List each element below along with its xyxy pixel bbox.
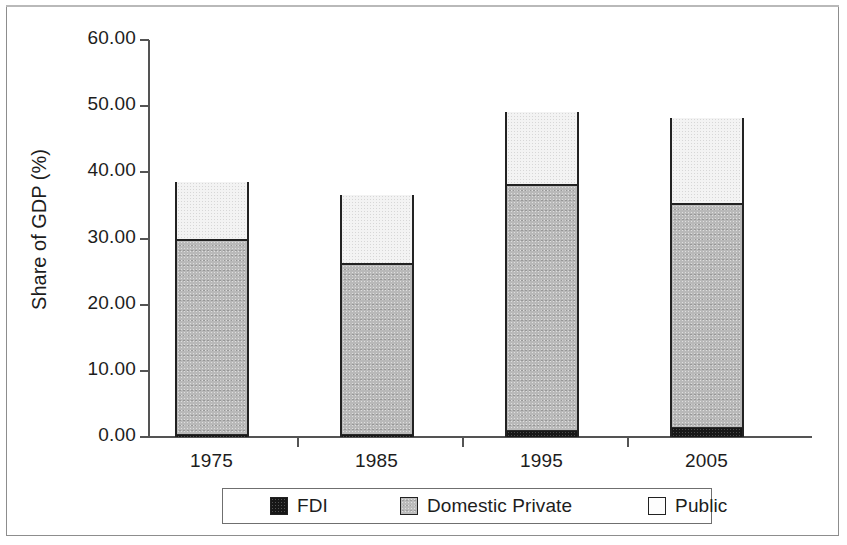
bar-segment-public	[342, 195, 412, 263]
x-axis-tick-label: 2005	[627, 450, 787, 472]
chart-legend: FDI Domestic Private Public	[222, 488, 712, 524]
x-axis-tick	[627, 437, 629, 447]
y-axis-tick	[140, 304, 149, 306]
stacked-bar	[340, 195, 414, 437]
legend-label-domestic-private: Domestic Private	[427, 495, 572, 517]
y-axis-tick	[140, 370, 149, 372]
x-axis-tick	[462, 437, 464, 447]
stacked-bar	[175, 182, 249, 437]
bar-segment-fdi	[672, 428, 742, 437]
y-axis-tick	[140, 436, 149, 438]
y-axis-tick	[140, 171, 149, 173]
bar-segment-fdi	[342, 435, 412, 437]
stacked-bar	[670, 118, 744, 437]
legend-swatch-fdi-icon	[270, 497, 288, 515]
stacked-bar	[505, 112, 579, 437]
y-axis-tick-label: 30.00	[44, 226, 136, 248]
x-axis-tick	[297, 437, 299, 447]
chart-figure: Share of GDP (%) 0.0010.0020.0030.0040.0…	[0, 0, 847, 545]
bar-segment-domestic-private	[177, 239, 247, 436]
bar-segment-domestic-private	[342, 263, 412, 435]
x-axis-tick-label: 1975	[132, 450, 292, 472]
y-axis-tick-label: 10.00	[44, 358, 136, 380]
legend-item-fdi: FDI	[270, 495, 328, 517]
x-axis-tick-label: 1995	[462, 450, 622, 472]
legend-label-public: Public	[675, 495, 727, 517]
legend-swatch-public-icon	[648, 497, 666, 515]
bar-segment-fdi	[507, 431, 577, 437]
legend-swatch-domestic-private-icon	[400, 497, 418, 515]
y-axis-tick-label: 60.00	[44, 27, 136, 49]
legend-item-public: Public	[648, 495, 727, 517]
y-axis-tick-label: 0.00	[44, 424, 136, 446]
bar-segment-public	[507, 112, 577, 184]
bar-segment-domestic-private	[672, 203, 742, 427]
y-axis-tick	[140, 238, 149, 240]
legend-item-domestic-private: Domestic Private	[400, 495, 572, 517]
plot-area: Share of GDP (%) 0.0010.0020.0030.0040.0…	[0, 0, 847, 545]
bar-segment-domestic-private	[507, 184, 577, 431]
legend-label-fdi: FDI	[297, 495, 328, 517]
y-axis-tick-label: 20.00	[44, 292, 136, 314]
y-axis-tick-label: 40.00	[44, 159, 136, 181]
y-axis-tick	[140, 105, 149, 107]
bar-segment-public	[672, 118, 742, 203]
bar-segment-fdi	[177, 435, 247, 437]
bar-segment-public	[177, 182, 247, 238]
y-axis-tick-label: 50.00	[44, 93, 136, 115]
x-axis-tick-label: 1985	[297, 450, 457, 472]
y-axis-tick	[140, 39, 149, 41]
